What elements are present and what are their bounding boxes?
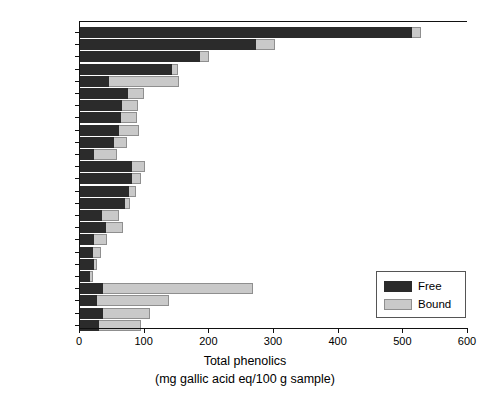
bar-segment-free <box>80 295 97 306</box>
y-axis-tick <box>75 44 80 45</box>
bound-swatch-icon <box>384 299 412 310</box>
phenolics-bar-chart: 0100200300400500600 Total phenolics (mg … <box>0 0 490 402</box>
bar-segment-bound <box>125 198 130 209</box>
y-axis-tick <box>75 239 80 240</box>
x-axis-tick <box>144 328 145 333</box>
bar-segment-free <box>80 100 122 111</box>
x-axis-title-line2: (mg gallic acid eq/100 g sample) <box>0 372 490 386</box>
bar-segment-bound <box>90 271 93 282</box>
y-axis-tick <box>75 288 80 289</box>
x-axis-tick-label: 500 <box>382 335 422 347</box>
x-axis-tick <box>467 328 468 333</box>
bar-segment-free <box>80 186 129 197</box>
bar-row <box>80 234 107 245</box>
y-axis-tick <box>75 93 80 94</box>
bar-segment-free <box>80 283 103 294</box>
bar-row <box>80 64 178 75</box>
bar-segment-free <box>80 198 125 209</box>
bar-segment-bound <box>99 320 142 331</box>
bar-row <box>80 308 150 319</box>
bar-row <box>80 161 145 172</box>
bar-segment-bound <box>119 125 140 136</box>
x-axis-tick <box>402 328 403 333</box>
bar-segment-bound <box>94 234 107 245</box>
bar-segment-free <box>80 51 200 62</box>
bar-segment-free <box>80 161 132 172</box>
bar-row <box>80 27 421 38</box>
y-axis-tick <box>75 215 80 216</box>
bar-row <box>80 271 93 282</box>
bar-segment-free <box>80 112 121 123</box>
chart-legend: Free Bound <box>376 271 466 318</box>
bar-row <box>80 125 139 136</box>
y-axis-tick <box>75 69 80 70</box>
y-axis-tick <box>75 276 80 277</box>
bar-segment-free <box>80 137 114 148</box>
bar-segment-bound <box>412 27 421 38</box>
bar-segment-bound <box>172 64 178 75</box>
y-axis-tick <box>75 252 80 253</box>
legend-label-bound: Bound <box>418 299 451 310</box>
bar-segment-free <box>80 259 94 270</box>
bar-segment-free <box>80 173 132 184</box>
x-axis-tick-label: 600 <box>447 335 487 347</box>
bar-segment-bound <box>109 76 179 87</box>
y-axis-tick <box>75 130 80 131</box>
bar-row <box>80 186 136 197</box>
bar-row <box>80 149 117 160</box>
y-axis-tick <box>75 178 80 179</box>
bar-row <box>80 259 97 270</box>
y-axis-tick <box>75 264 80 265</box>
bar-segment-bound <box>122 100 138 111</box>
bar-segment-free <box>80 247 93 258</box>
y-axis-tick <box>75 81 80 82</box>
y-axis-tick <box>75 142 80 143</box>
y-axis-tick <box>75 313 80 314</box>
bar-row <box>80 247 101 258</box>
legend-entry-bound: Bound <box>384 296 465 312</box>
x-axis-tick-label: 400 <box>318 335 358 347</box>
bar-row <box>80 112 137 123</box>
x-axis-tick-label: 300 <box>253 335 293 347</box>
bar-row <box>80 76 179 87</box>
y-axis-tick <box>75 191 80 192</box>
bar-row <box>80 320 141 331</box>
bar-segment-free <box>80 27 412 38</box>
bar-segment-free <box>80 308 103 319</box>
bar-row <box>80 222 123 233</box>
bar-row <box>80 295 169 306</box>
bar-segment-free <box>80 320 99 331</box>
bar-segment-bound <box>103 308 150 319</box>
bar-segment-bound <box>132 173 142 184</box>
bar-segment-free <box>80 234 94 245</box>
y-axis-tick <box>75 154 80 155</box>
x-axis-tick <box>79 328 80 333</box>
bar-segment-bound <box>200 51 210 62</box>
bar-segment-free <box>80 88 128 99</box>
legend-label-free: Free <box>418 281 442 292</box>
y-axis-tick <box>75 227 80 228</box>
y-axis-tick <box>75 166 80 167</box>
bar-segment-bound <box>128 88 144 99</box>
y-axis-tick <box>75 32 80 33</box>
bar-segment-free <box>80 210 102 221</box>
x-axis-tick-label: 0 <box>59 335 99 347</box>
y-axis-tick <box>75 300 80 301</box>
bar-segment-bound <box>121 112 137 123</box>
bar-segment-free <box>80 222 106 233</box>
bar-row <box>80 173 141 184</box>
bar-segment-free <box>80 64 172 75</box>
bar-segment-free <box>80 39 256 50</box>
legend-entry-free: Free <box>384 278 465 294</box>
x-axis-tick <box>273 328 274 333</box>
bar-segment-bound <box>102 210 119 221</box>
bar-row <box>80 100 138 111</box>
y-axis-tick <box>75 105 80 106</box>
y-axis-tick <box>75 203 80 204</box>
bar-segment-bound <box>114 137 127 148</box>
bar-segment-free <box>80 271 90 282</box>
bar-row <box>80 198 130 209</box>
bar-segment-bound <box>256 39 275 50</box>
bar-row <box>80 88 144 99</box>
bar-segment-bound <box>103 283 253 294</box>
